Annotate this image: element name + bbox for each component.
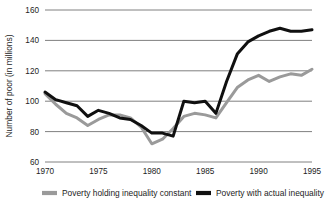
chart-figure: 6080100120140160197019751980198519901995… [0, 0, 326, 212]
y-tick-label-140: 140 [25, 36, 39, 45]
y-tick-label-100: 100 [25, 97, 39, 106]
x-tick-label-1990: 1990 [249, 167, 268, 176]
legend-label-1: Poverty holding inequality constant [62, 188, 192, 198]
y-tick-label-80: 80 [30, 128, 40, 137]
x-tick-label-1995: 1995 [303, 167, 322, 176]
x-tick-label-1985: 1985 [196, 167, 215, 176]
line-chart: 6080100120140160197019751980198519901995… [0, 0, 326, 212]
y-tick-label-160: 160 [25, 6, 39, 15]
x-tick-label-1980: 1980 [143, 167, 162, 176]
y-tick-label-60: 60 [30, 158, 40, 167]
x-tick-label-1975: 1975 [89, 167, 108, 176]
legend-label-2: Poverty with actual inequality [216, 188, 325, 198]
y-axis-title: Number of poor (in millions) [4, 34, 14, 137]
series-line-2 [45, 28, 312, 136]
y-tick-label-120: 120 [25, 67, 39, 76]
x-tick-label-1970: 1970 [36, 167, 55, 176]
series-line-1 [45, 69, 312, 143]
